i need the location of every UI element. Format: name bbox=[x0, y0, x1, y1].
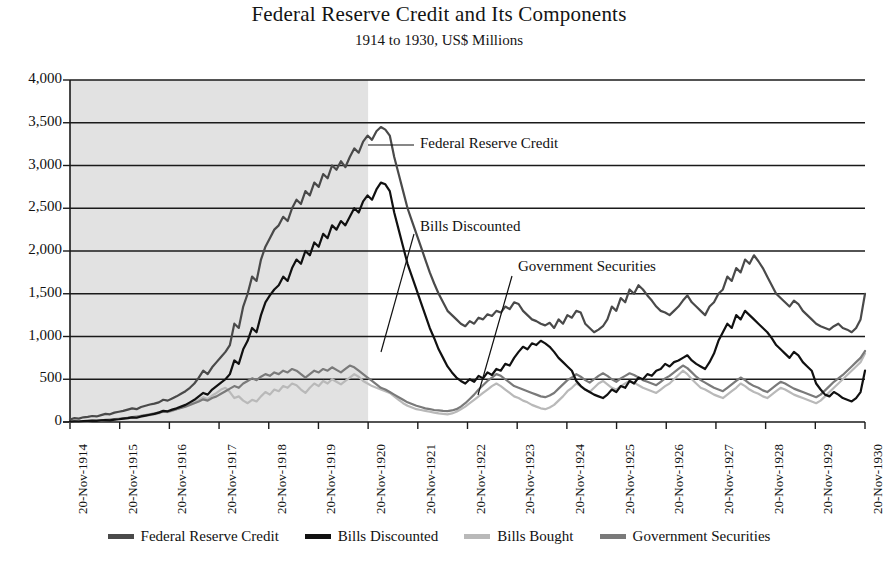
x-tick-label: 20-Nov-1920 bbox=[373, 444, 389, 514]
legend-label: Federal Reserve Credit bbox=[141, 528, 279, 545]
y-tick-label: 2,000 bbox=[0, 241, 62, 258]
legend-item[interactable]: Federal Reserve Credit bbox=[108, 528, 279, 545]
x-tick-label: 20-Nov-1917 bbox=[224, 444, 240, 514]
legend-item[interactable]: Bills Bought bbox=[464, 528, 573, 545]
annotation-label: Government Securities bbox=[518, 258, 656, 275]
legend-label: Bills Discounted bbox=[338, 528, 438, 545]
x-tick-label: 20-Nov-1925 bbox=[622, 444, 638, 514]
footer-fragment bbox=[0, 556, 878, 568]
x-tick-label: 20-Nov-1923 bbox=[522, 444, 538, 514]
y-tick-label: 0 bbox=[0, 412, 62, 429]
legend-item[interactable]: Government Securities bbox=[600, 528, 771, 545]
x-tick-label: 20-Nov-1922 bbox=[473, 444, 489, 514]
legend-swatch bbox=[305, 534, 331, 539]
x-tick-label: 20-Nov-1918 bbox=[274, 444, 290, 514]
x-tick-label: 20-Nov-1914 bbox=[75, 444, 91, 514]
annotation-label: Bills Discounted bbox=[420, 218, 520, 235]
x-tick-label: 20-Nov-1921 bbox=[423, 444, 439, 514]
x-tick-label: 20-Nov-1928 bbox=[771, 444, 787, 514]
x-tick-label: 20-Nov-1927 bbox=[721, 444, 737, 514]
y-tick-label: 2,500 bbox=[0, 198, 62, 215]
x-tick-label: 20-Nov-1924 bbox=[572, 444, 588, 514]
y-tick-label: 3,500 bbox=[0, 113, 62, 130]
legend-item[interactable]: Bills Discounted bbox=[305, 528, 438, 545]
legend-label: Government Securities bbox=[633, 528, 771, 545]
x-tick-label: 20-Nov-1919 bbox=[323, 444, 339, 514]
legend-label: Bills Bought bbox=[497, 528, 573, 545]
x-tick-label: 20-Nov-1915 bbox=[125, 444, 141, 514]
x-tick-label: 20-Nov-1930 bbox=[870, 444, 886, 514]
y-tick-label: 4,000 bbox=[0, 70, 62, 87]
x-tick-label: 20-Nov-1926 bbox=[671, 444, 687, 514]
legend-swatch bbox=[600, 534, 626, 539]
y-tick-label: 500 bbox=[0, 369, 62, 386]
x-tick-label: 20-Nov-1929 bbox=[820, 444, 836, 514]
y-tick-label: 1,500 bbox=[0, 284, 62, 301]
y-tick-label: 3,000 bbox=[0, 156, 62, 173]
annotation-label: Federal Reserve Credit bbox=[420, 135, 558, 152]
chart-legend: Federal Reserve CreditBills DiscountedBi… bbox=[0, 528, 878, 545]
legend-swatch bbox=[108, 534, 134, 539]
legend-swatch bbox=[464, 534, 490, 539]
y-tick-label: 1,000 bbox=[0, 327, 62, 344]
x-tick-label: 20-Nov-1916 bbox=[174, 444, 190, 514]
